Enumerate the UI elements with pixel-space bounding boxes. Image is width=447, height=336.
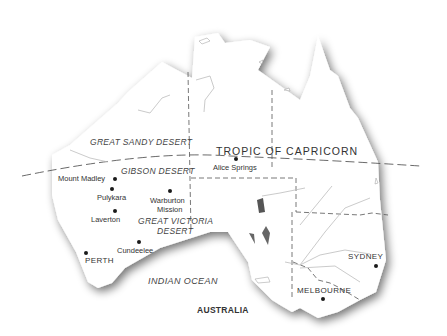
ocean-label-indian: INDIAN OCEAN	[148, 277, 218, 286]
place-dot-alice-springs	[234, 157, 238, 161]
place-label-melbourne[interactable]: MELBOURNE	[297, 287, 351, 295]
place-label-perth[interactable]: PERTH	[85, 257, 114, 265]
map-title: AUSTRALIA	[197, 306, 249, 315]
desert-label-great-sandy: GREAT SANDY DESERT	[90, 138, 192, 147]
place-label-pulykara[interactable]: Pulykara	[97, 194, 126, 202]
place-label-warburton-line2: Mission	[157, 206, 182, 214]
place-dot-mount-madley	[113, 177, 117, 181]
desert-label-great-victoria-1: GREAT VICTORIA	[138, 217, 213, 226]
place-label-alice-springs[interactable]: Alice Springs	[213, 164, 257, 172]
place-label-cundeelee[interactable]: Cundeelee	[117, 247, 153, 255]
place-dot-pulykara	[110, 187, 114, 191]
place-dot-sydney	[374, 264, 378, 268]
place-dot-melbourne	[321, 297, 325, 301]
place-label-mount-madley[interactable]: Mount Madley	[58, 175, 105, 183]
desert-label-gibson: GIBSON DESERT	[121, 167, 195, 176]
desert-label-great-victoria-2: DESERT	[157, 227, 193, 236]
place-dot-perth	[84, 251, 88, 255]
place-dot-laverton	[113, 209, 117, 213]
place-label-warburton[interactable]: Warburton	[150, 197, 185, 205]
place-dot-cundeelee	[137, 240, 141, 244]
tropic-of-capricorn-label: TROPIC OF CAPRICORN	[216, 146, 358, 157]
place-label-sydney[interactable]: SYDNEY	[348, 253, 383, 261]
place-dot-warburton	[168, 189, 172, 193]
place-label-laverton[interactable]: Laverton	[91, 216, 120, 224]
